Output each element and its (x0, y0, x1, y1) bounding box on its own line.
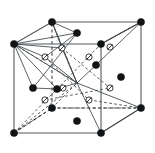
unit-cell-svg (0, 0, 155, 153)
corner-atom (97, 40, 104, 47)
face-center-atom (29, 84, 36, 91)
interior-open-atom (86, 54, 92, 60)
corner-atom (137, 18, 144, 25)
corner-atom (48, 18, 55, 25)
interior-open-atom (42, 97, 48, 103)
coordination-bond (62, 48, 77, 83)
coordination-bond-hidden (89, 100, 141, 108)
interior-open-atom (59, 45, 65, 51)
interior-open-atom (107, 85, 113, 91)
interior-open-atom (42, 54, 48, 60)
coordination-bond (45, 57, 77, 83)
interior-open-atom (86, 97, 92, 103)
coordination-bond (101, 108, 141, 133)
corner-atom (137, 104, 144, 111)
corner-atom (48, 104, 55, 111)
interior-open-atom (60, 85, 66, 91)
face-center-atom (73, 29, 80, 36)
coordination-bond-hidden (14, 108, 52, 133)
face-center-atom (92, 61, 99, 68)
coordination-bond (77, 22, 141, 83)
corner-atom (10, 129, 17, 136)
face-center-atom (53, 85, 60, 92)
interior-open-atom (107, 44, 113, 50)
coordination-bond (33, 33, 77, 88)
corner-atom (10, 40, 17, 47)
face-center-atom (117, 73, 124, 80)
corner-atom (97, 129, 104, 136)
coordination-bond-hidden (62, 48, 110, 88)
face-center-atom (73, 117, 80, 124)
crystal-unit-cell-figure (0, 0, 155, 153)
